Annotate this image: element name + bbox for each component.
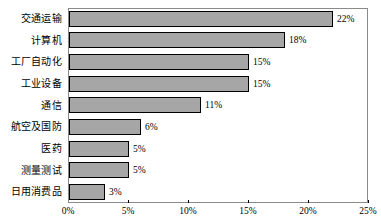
- bar-value-label: 6%: [141, 119, 158, 135]
- category-label: 医药: [0, 138, 62, 160]
- bar: [69, 184, 105, 200]
- bar: [69, 97, 201, 113]
- x-tick-label: 10%: [179, 206, 196, 216]
- bar-value-label: 15%: [249, 54, 270, 70]
- bar-row: 计算机18%: [0, 30, 381, 52]
- bar-value-label: 5%: [129, 141, 146, 157]
- x-axis: 0%5%10%15%20%25%: [68, 203, 368, 222]
- bar-row: 航空及国防6%: [0, 116, 381, 138]
- category-label: 工业设备: [0, 73, 62, 95]
- bar: [69, 141, 129, 157]
- x-tick-label: 0%: [62, 206, 75, 216]
- x-tick-label: 25%: [359, 206, 376, 216]
- bar-value-label: 3%: [105, 184, 122, 200]
- bar-row: 工厂自动化15%: [0, 51, 381, 73]
- x-tick-label: 15%: [239, 206, 256, 216]
- x-tick-mark: [368, 200, 369, 203]
- bar-row: 测量测试5%: [0, 160, 381, 182]
- bar-value-label: 11%: [201, 97, 222, 113]
- bar: [69, 162, 129, 178]
- bar: [69, 32, 285, 48]
- bar-value-label: 18%: [285, 32, 306, 48]
- x-tick-label: 5%: [122, 206, 135, 216]
- bar-row: 日用消费品3%: [0, 181, 381, 203]
- category-label: 计算机: [0, 30, 62, 52]
- category-label: 通信: [0, 95, 62, 117]
- bar-value-label: 5%: [129, 162, 146, 178]
- category-label: 测量测试: [0, 160, 62, 182]
- x-tick-mark: [128, 200, 129, 203]
- bar-row: 交通运输22%: [0, 8, 381, 30]
- x-tick-label: 20%: [299, 206, 316, 216]
- x-tick-mark: [248, 200, 249, 203]
- category-label: 交通运输: [0, 8, 62, 30]
- x-tick-mark: [188, 200, 189, 203]
- x-tick-mark: [308, 200, 309, 203]
- bar-row: 医药5%: [0, 138, 381, 160]
- bar-row: 通信11%: [0, 95, 381, 117]
- bar: [69, 119, 141, 135]
- category-label: 航空及国防: [0, 116, 62, 138]
- bar: [69, 76, 249, 92]
- bar-value-label: 15%: [249, 76, 270, 92]
- category-label: 工厂自动化: [0, 51, 62, 73]
- category-label: 日用消费品: [0, 181, 62, 203]
- bar: [69, 11, 333, 27]
- bar-row: 工业设备15%: [0, 73, 381, 95]
- bar: [69, 54, 249, 70]
- bar-value-label: 22%: [333, 11, 354, 27]
- bar-chart: 交通运输22%计算机18%工厂自动化15%工业设备15%通信11%航空及国防6%…: [0, 0, 381, 222]
